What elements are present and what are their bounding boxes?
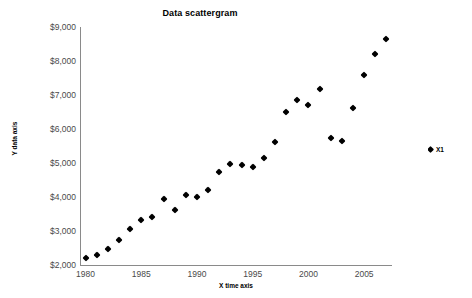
data-point — [216, 168, 223, 175]
x-axis-title: X time axis — [80, 282, 392, 289]
data-point — [383, 35, 390, 42]
x-axis-tick-label: 2005 — [342, 269, 386, 279]
data-point — [182, 191, 189, 198]
data-point — [115, 236, 122, 243]
data-point — [249, 164, 256, 171]
data-point — [294, 96, 301, 103]
legend-series-label: X1 — [436, 146, 444, 153]
data-point — [238, 161, 245, 168]
x-axis-line — [80, 265, 392, 266]
scatter-chart: Data scattergram Y data axis $9,000$8,00… — [0, 0, 472, 298]
data-point — [349, 104, 356, 111]
x-axis-tick-label: 1995 — [231, 269, 275, 279]
y-axis-title: Y data axis — [11, 109, 18, 169]
data-point — [227, 161, 234, 168]
y-axis-tick-label: $9,000 — [34, 22, 76, 32]
y-axis-tick-label: $6,000 — [34, 124, 76, 134]
data-point — [149, 214, 156, 221]
x-axis-tick-label: 1990 — [175, 269, 219, 279]
y-axis-tick-label: $4,000 — [34, 192, 76, 202]
y-axis-tick-label: $5,000 — [34, 158, 76, 168]
data-point — [104, 245, 111, 252]
data-point — [160, 196, 167, 203]
data-point — [327, 134, 334, 141]
legend-marker-icon — [428, 145, 434, 152]
y-axis-tick-label: $3,000 — [34, 226, 76, 236]
x-axis-tick-label: 1980 — [64, 269, 108, 279]
y-axis-tick-label: $7,000 — [34, 90, 76, 100]
y-axis-tick-labels: $9,000$8,000$7,000$6,000$5,000$4,000$3,0… — [30, 0, 76, 298]
data-point — [205, 186, 212, 193]
data-point — [93, 251, 100, 258]
legend: X1 — [428, 142, 472, 156]
data-point — [138, 216, 145, 223]
data-point — [316, 85, 323, 92]
data-point — [127, 225, 134, 232]
data-point — [283, 108, 290, 115]
data-point — [271, 139, 278, 146]
x-axis-tick-label: 2000 — [286, 269, 330, 279]
data-point — [338, 138, 345, 145]
data-point — [260, 155, 267, 162]
data-point — [372, 51, 379, 58]
x-axis-tick-label: 1985 — [119, 269, 163, 279]
data-point — [82, 255, 89, 262]
data-point — [193, 193, 200, 200]
y-axis-tick-label: $8,000 — [34, 56, 76, 66]
data-point — [305, 101, 312, 108]
plot-area — [80, 27, 392, 265]
data-point — [171, 206, 178, 213]
data-point — [361, 71, 368, 78]
